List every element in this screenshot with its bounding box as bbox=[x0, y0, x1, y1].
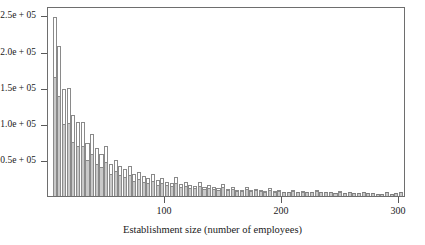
histogram-bar bbox=[273, 191, 277, 196]
histogram-bar bbox=[109, 164, 113, 197]
histogram-bar bbox=[128, 166, 132, 196]
histogram-bar bbox=[132, 174, 136, 196]
histogram-bar bbox=[235, 190, 239, 197]
histogram-bars bbox=[48, 8, 404, 196]
histogram-bar bbox=[212, 187, 216, 196]
histogram-bar-cap bbox=[273, 191, 277, 193]
y-axis-tick bbox=[41, 89, 47, 90]
histogram-bar-cap bbox=[179, 184, 183, 188]
histogram-bar bbox=[114, 160, 118, 196]
histogram-bar bbox=[348, 192, 352, 196]
histogram-bar-cap bbox=[156, 180, 160, 185]
histogram-bar-cap bbox=[118, 166, 122, 176]
histogram-bar-cap bbox=[99, 154, 103, 168]
histogram-bar bbox=[231, 187, 235, 196]
histogram-bar bbox=[352, 193, 356, 196]
histogram-bar bbox=[81, 122, 85, 196]
histogram-figure: Establishment size (number of employees)… bbox=[0, 0, 425, 245]
y-axis-tick-label: 1.0e + 05 bbox=[0, 120, 36, 130]
histogram-bar-cap bbox=[231, 187, 235, 190]
histogram-bar-cap bbox=[198, 182, 202, 187]
x-axis-tick bbox=[398, 197, 399, 203]
histogram-bar-cap bbox=[76, 122, 80, 147]
histogram-bar bbox=[315, 190, 319, 196]
histogram-bar bbox=[202, 187, 206, 196]
y-axis-tick bbox=[41, 16, 47, 17]
histogram-bar bbox=[343, 193, 347, 196]
histogram-bar-cap bbox=[277, 190, 281, 192]
histogram-bar bbox=[137, 172, 141, 196]
histogram-bar-cap bbox=[221, 184, 225, 188]
y-axis-tick-label: 2.5e + 05 bbox=[0, 11, 36, 21]
histogram-bar-cap bbox=[95, 148, 99, 164]
histogram-bar-cap bbox=[291, 190, 295, 192]
histogram-bar-cap bbox=[212, 187, 216, 190]
x-axis-tick-label: 100 bbox=[144, 205, 184, 216]
histogram-bar-cap bbox=[160, 178, 164, 184]
histogram-bar bbox=[146, 178, 150, 196]
histogram-bar-cap bbox=[165, 182, 169, 187]
histogram-bar bbox=[174, 177, 178, 196]
histogram-bar-cap bbox=[137, 172, 141, 180]
histogram-bar bbox=[90, 134, 94, 196]
histogram-bar-cap bbox=[184, 182, 188, 187]
histogram-bar-cap bbox=[62, 89, 66, 125]
histogram-bar bbox=[249, 190, 253, 196]
histogram-bar bbox=[53, 17, 57, 196]
histogram-bar bbox=[99, 154, 103, 196]
histogram-bar bbox=[216, 188, 220, 196]
histogram-bar bbox=[221, 184, 225, 196]
histogram-bar-cap bbox=[174, 177, 178, 183]
histogram-bar bbox=[170, 183, 174, 196]
histogram-bar bbox=[282, 192, 286, 196]
histogram-bar bbox=[207, 185, 211, 196]
y-axis-tick-label: 0.5e + 05 bbox=[0, 156, 36, 166]
histogram-bar-cap bbox=[188, 185, 192, 189]
histogram-bar bbox=[76, 122, 80, 196]
histogram-bar bbox=[301, 191, 305, 196]
plot-area bbox=[47, 7, 405, 197]
histogram-bar bbox=[198, 182, 202, 196]
histogram-bar bbox=[57, 46, 61, 196]
histogram-bar bbox=[296, 192, 300, 196]
histogram-bar bbox=[245, 187, 249, 196]
histogram-bar bbox=[319, 192, 323, 196]
histogram-bar-cap bbox=[53, 17, 57, 78]
histogram-bar bbox=[329, 192, 333, 196]
histogram-bar-cap bbox=[142, 176, 146, 183]
histogram-bar bbox=[67, 88, 71, 196]
histogram-bar-cap bbox=[132, 174, 136, 181]
histogram-bar bbox=[160, 178, 164, 196]
histogram-bar bbox=[380, 194, 384, 196]
y-axis-tick bbox=[41, 125, 47, 126]
histogram-bar bbox=[188, 185, 192, 196]
histogram-bar bbox=[240, 190, 244, 197]
histogram-bar bbox=[254, 189, 258, 196]
histogram-bar bbox=[71, 115, 75, 196]
histogram-bar-cap bbox=[226, 189, 230, 191]
histogram-bar bbox=[310, 192, 314, 196]
histogram-bar-cap bbox=[151, 174, 155, 181]
histogram-bar-cap bbox=[315, 190, 319, 192]
histogram-bar-cap bbox=[207, 185, 211, 189]
x-axis-tick bbox=[281, 197, 282, 203]
histogram-bar-cap bbox=[301, 191, 305, 193]
histogram-bar bbox=[376, 194, 380, 196]
histogram-bar-cap bbox=[268, 188, 272, 191]
histogram-bar bbox=[184, 182, 188, 196]
histogram-bar-cap bbox=[114, 160, 118, 172]
histogram-bar-cap bbox=[249, 190, 253, 192]
histogram-bar bbox=[62, 89, 66, 196]
histogram-bar bbox=[324, 192, 328, 196]
histogram-bar bbox=[291, 190, 295, 197]
histogram-bar bbox=[371, 193, 375, 196]
histogram-bar bbox=[357, 193, 361, 196]
histogram-bar bbox=[390, 194, 394, 196]
histogram-bar bbox=[399, 192, 403, 196]
y-axis-tick bbox=[41, 53, 47, 54]
histogram-bar-cap bbox=[254, 189, 258, 191]
y-axis-tick-label: 1.5e + 05 bbox=[0, 84, 36, 94]
histogram-bar bbox=[394, 193, 398, 196]
histogram-bar bbox=[142, 176, 146, 196]
histogram-bar-cap bbox=[338, 191, 342, 193]
